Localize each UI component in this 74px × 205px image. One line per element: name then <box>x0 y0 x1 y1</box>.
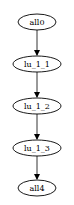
node-lu_1_1[interactable]: lu_1_1 <box>13 56 61 72</box>
node-label: lu_1_1 <box>24 60 50 69</box>
node-lu_1_3[interactable]: lu_1_3 <box>13 140 61 156</box>
node-label: lu_1_2 <box>24 102 50 111</box>
node-label: all0 <box>30 18 45 27</box>
node-all0[interactable]: all0 <box>18 14 56 30</box>
node-label: lu_1_3 <box>24 144 50 153</box>
node-label: all4 <box>30 184 45 193</box>
node-lu_1_2[interactable]: lu_1_2 <box>13 98 61 114</box>
graph-canvas: all0lu_1_1lu_1_2lu_1_3all4 <box>0 0 74 205</box>
node-all4[interactable]: all4 <box>18 180 56 196</box>
